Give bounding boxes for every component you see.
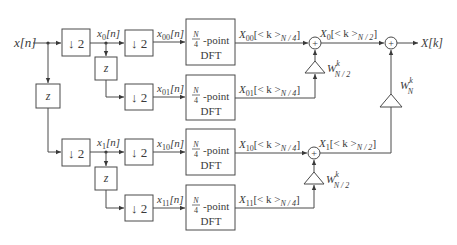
twiddle-label-lower: WkN / 2 — [326, 170, 349, 190]
svg-text:4: 4 — [194, 150, 198, 159]
output-label: X[k] — [420, 36, 443, 50]
decimator-label: ↓ 2 — [131, 201, 147, 216]
svg-text:4: 4 — [194, 206, 198, 215]
X0-label: X0[< k >N / 2] — [319, 27, 377, 42]
svg-text:+: + — [311, 148, 317, 159]
adder-final: + — [385, 37, 397, 49]
svg-text:DFT: DFT — [201, 159, 222, 171]
dft-block-00: N 4 -point DFT — [186, 19, 235, 65]
delay-label: z — [103, 171, 109, 185]
x10-label: x10[n] — [156, 137, 184, 152]
x00-label: x00[n] — [156, 27, 184, 42]
x1-delay-wire-out — [106, 190, 124, 208]
svg-text:N: N — [192, 86, 199, 95]
x01-label: x01[n] — [156, 82, 184, 97]
delay-label: z — [45, 89, 51, 103]
twiddle-multiplier-upper — [305, 50, 325, 73]
x0-delay-wire-out — [106, 80, 124, 97]
delay-wire-out — [48, 108, 61, 152]
X11-label: X11[< k >N / 4] — [238, 193, 300, 208]
svg-text:4: 4 — [194, 40, 198, 49]
svg-text:DFT: DFT — [201, 49, 222, 61]
decimator-label: ↓ 2 — [131, 145, 147, 160]
input-label: x[n] — [13, 35, 36, 50]
twiddle-multiplier-lower — [304, 160, 324, 184]
twiddle-label-final: WkN — [400, 76, 414, 96]
svg-text:N: N — [192, 140, 199, 149]
svg-text:4: 4 — [194, 96, 198, 105]
dft-block-10: N 4 -point DFT — [186, 129, 235, 175]
decimator-label: ↓ 2 — [68, 36, 84, 51]
svg-text:-point: -point — [203, 200, 229, 212]
svg-text:N: N — [192, 30, 199, 39]
X10-label: X10[< k >N / 4] — [238, 138, 300, 153]
x0-label: x0[n] — [96, 27, 120, 42]
dft-block-01: N 4 -point DFT — [186, 75, 235, 120]
X00-label: X00[< k >N / 4] — [238, 28, 300, 43]
svg-text:-point: -point — [203, 90, 229, 102]
svg-text:N: N — [192, 196, 199, 205]
x11-label: x11[n] — [156, 193, 184, 208]
svg-text:+: + — [388, 38, 394, 49]
twiddle-multiplier-final — [380, 50, 402, 107]
fft-block-diagram: x[n] z ↓ 2 ↓ 2 x0[n] z x1[n] z ↓ 2 ↓ 2 ↓… — [0, 0, 457, 245]
twiddle-label-upper: WkN / 2 — [327, 59, 350, 79]
svg-text:-point: -point — [203, 34, 229, 46]
decimator-label: ↓ 2 — [68, 146, 84, 161]
svg-text:DFT: DFT — [201, 215, 222, 227]
svg-text:DFT: DFT — [201, 105, 222, 117]
x1-label: x1[n] — [96, 136, 120, 151]
delay-label: z — [103, 61, 109, 75]
dft-block-11: N 4 -point DFT — [186, 185, 235, 230]
X01-label: X01[< k >N / 4] — [238, 83, 300, 98]
X1-label: X1[< k >N / 2] — [318, 137, 376, 152]
svg-text:+: + — [312, 38, 318, 49]
decimator-label: ↓ 2 — [131, 90, 147, 105]
svg-text:-point: -point — [203, 144, 229, 156]
decimator-label: ↓ 2 — [131, 36, 147, 51]
